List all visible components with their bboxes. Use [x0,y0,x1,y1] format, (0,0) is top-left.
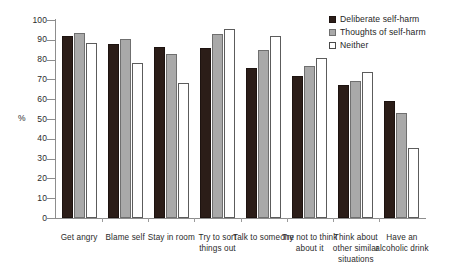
x-axis-tick [148,218,149,222]
y-axis-tick-label: 20 [3,174,47,183]
bar-group [246,20,281,218]
y-axis-tick-label: 10 [3,194,47,203]
legend-swatch-icon-neither [329,42,336,49]
x-axis-tick [241,218,242,222]
y-axis-tick [47,99,55,100]
legend-label: Neither [340,41,368,50]
legend-item-deliberate-self-harm[interactable]: Deliberate self-harm [329,14,426,26]
bar[interactable] [224,29,235,218]
bar[interactable] [74,33,85,218]
bar-group [154,20,189,218]
bar[interactable] [292,76,303,218]
x-axis-category-label: Have an alcoholic drink [371,232,433,254]
x-axis-tick [333,218,334,222]
bar[interactable] [154,47,165,218]
y-axis-tick [47,79,55,80]
legend: Deliberate self-harm Thoughts of self-ha… [329,14,426,53]
legend-label: Thoughts of self-harm [340,28,426,37]
bar-group [200,20,235,218]
x-axis-tick [287,218,288,222]
bar-group [62,20,97,218]
bar[interactable] [132,63,143,218]
y-axis-tick-label: 80 [3,55,47,64]
bar-chart: 1009080706050403020100 % Deliberate self… [0,0,469,270]
bar[interactable] [108,44,119,218]
bar[interactable] [270,36,281,218]
legend-label: Deliberate self-harm [340,15,419,24]
legend-item-thoughts-of-self-harm[interactable]: Thoughts of self-harm [329,27,426,39]
bar[interactable] [246,68,257,218]
y-axis-tick-label: 0 [3,214,47,223]
bar[interactable] [362,72,373,218]
bar-group [108,20,143,218]
bar[interactable] [396,113,407,218]
bar[interactable] [86,43,97,218]
bar-group [292,20,327,218]
y-axis-tick [47,119,55,120]
x-axis-tick [379,218,380,222]
y-axis-tick-label: 90 [3,35,47,44]
y-axis-tick [47,60,55,61]
y-axis-tick [47,20,55,21]
y-axis-tick-label: 100 [3,16,47,25]
legend-swatch-icon-thoughts-of-self-harm [329,29,336,36]
bar[interactable] [304,66,315,218]
legend-swatch-icon-deliberate-self-harm [329,16,336,23]
bar[interactable] [316,58,327,218]
y-axis-tick-label: 40 [3,134,47,143]
y-axis-tick-label: 30 [3,154,47,163]
x-axis-tick [194,218,195,222]
bar[interactable] [338,85,349,218]
y-axis-tick [47,218,55,219]
y-axis-tick-labels: 1009080706050403020100 [0,0,47,270]
x-axis-tick [102,218,103,222]
bar[interactable] [120,39,131,218]
bar[interactable] [200,48,211,218]
bar[interactable] [350,81,361,218]
bar[interactable] [384,101,395,218]
y-axis-tick [47,159,55,160]
y-axis-tick-label: 70 [3,75,47,84]
bar[interactable] [166,54,177,218]
y-axis-tick [47,139,55,140]
bar[interactable] [408,148,419,218]
bar[interactable] [178,83,189,218]
bar[interactable] [62,36,73,218]
bar[interactable] [258,50,269,218]
legend-item-neither[interactable]: Neither [329,40,426,52]
bar[interactable] [212,34,223,218]
y-axis-tick-label: 60 [3,95,47,104]
y-axis-tick [47,40,55,41]
y-axis-tick [47,178,55,179]
y-axis-title: % [18,114,26,123]
y-axis-tick [47,198,55,199]
